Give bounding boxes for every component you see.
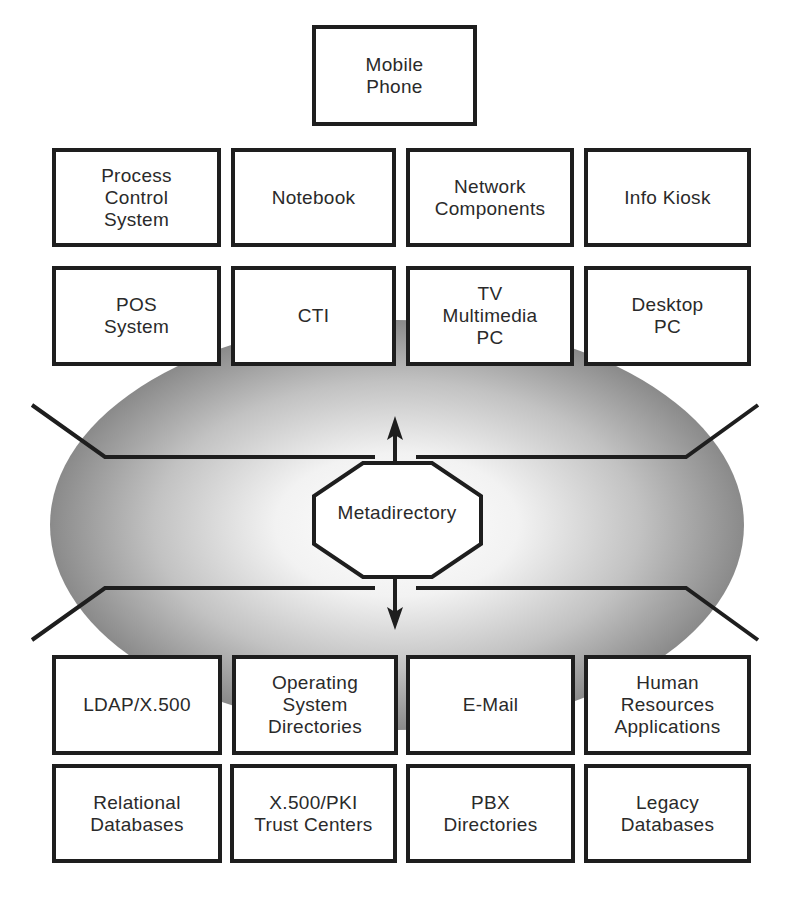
node-info-kiosk: Info Kiosk [584, 148, 751, 247]
node-relational-databases: Relational Databases [52, 764, 222, 863]
node-process-control-system: Process Control System [52, 148, 221, 247]
node-notebook: Notebook [231, 148, 396, 247]
node-network-components: Network Components [406, 148, 574, 247]
node-human-resources-applications: Human Resources Applications [584, 655, 751, 755]
node-pbx-directories: PBX Directories [406, 764, 575, 863]
node-pos-system: POS System [52, 266, 221, 366]
node-tv-multimedia-pc: TV Multimedia PC [406, 266, 574, 366]
node-mobile-phone: Mobile Phone [312, 25, 477, 126]
node-operating-system-directories: Operating System Directories [232, 655, 398, 755]
node-desktop-pc: Desktop PC [584, 266, 751, 366]
node-ldap-x500: LDAP/X.500 [52, 655, 222, 755]
node-cti: CTI [231, 266, 396, 366]
metadirectory-diagram: Metadirectory Mobile Phone Process Contr… [0, 0, 797, 899]
metadirectory-label: Metadirectory [312, 502, 482, 526]
node-x500-pki-trust-centers: X.500/PKI Trust Centers [230, 764, 397, 863]
node-legacy-databases: Legacy Databases [584, 764, 751, 863]
node-e-mail: E-Mail [406, 655, 575, 755]
